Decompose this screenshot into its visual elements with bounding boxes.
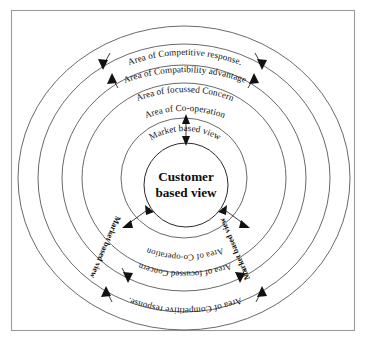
arrow-center-to-market-lower-left <box>122 205 154 228</box>
arrow-top-left-outer <box>98 53 110 70</box>
center-label-line1: Customer <box>158 169 214 184</box>
label-focussed-concern-bottom: Area of focussed Concern <box>136 261 233 280</box>
label-focussed-concern-top: Area of focussed Concern <box>135 84 236 103</box>
diagram-canvas: Area of Compatibility advantage Area of … <box>0 0 366 344</box>
arrow-top-left-inner <box>107 73 118 88</box>
label-compatibility-advantage-top: Area of Compatibility advantage <box>122 64 248 85</box>
center-label-line2: based view <box>155 185 217 200</box>
label-co-operation-bottom: Area of Co-operation <box>144 246 225 263</box>
arrow-bottom-left-inner <box>122 268 133 283</box>
concentric-circles-diagram: Area of Compatibility advantage Area of … <box>0 0 366 344</box>
arrow-top-right-inner <box>248 73 259 88</box>
label-market-based-view-left: Market based view <box>88 215 122 280</box>
label-competitive-response-bottom: Area of Competitive response. <box>126 296 243 316</box>
